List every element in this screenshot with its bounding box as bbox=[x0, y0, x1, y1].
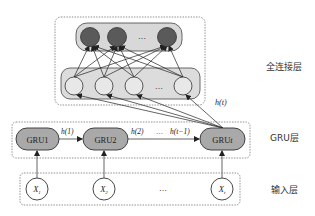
ht-label: h(t) bbox=[215, 98, 227, 107]
fc-output-node-1 bbox=[81, 28, 100, 47]
ht-connections bbox=[77, 95, 223, 128]
gru-cell-2-label: GRU2 bbox=[94, 135, 116, 145]
edge-h1-label: h(1) bbox=[61, 127, 74, 136]
input-ellipsis: … bbox=[159, 184, 167, 193]
edge-h2-label: h(2) bbox=[131, 127, 144, 136]
input-layer-label: 输入层 bbox=[271, 184, 298, 195]
gru-layer-group: GRU1 GRU2 GRUt h(1) h(2) … h(t−1) bbox=[12, 122, 250, 158]
gru-cell-t-label: GRUt bbox=[212, 135, 233, 145]
fc-hidden-node-n bbox=[174, 77, 192, 95]
fc-layer-label: 全连接层 bbox=[266, 61, 302, 72]
input-layer-dashed-border bbox=[20, 173, 240, 205]
gru-cell-1-label: GRU1 bbox=[26, 135, 48, 145]
fc-hidden-node-3 bbox=[125, 77, 143, 95]
edge-ht-minus-1-label: h(t−1) bbox=[170, 127, 190, 136]
fc-output-node-n bbox=[158, 28, 177, 47]
fc-hidden-ellipsis: … bbox=[155, 82, 163, 91]
fc-hidden-node-1 bbox=[65, 77, 83, 95]
fc-layer-group: … … bbox=[55, 17, 205, 105]
fc-output-node-2 bbox=[108, 28, 127, 47]
fc-output-ellipsis: … bbox=[138, 32, 146, 41]
gru-architecture-diagram: … … h(t) GRU1 GRU2 GRUt h(1) bbox=[0, 0, 315, 216]
fc-hidden-node-2 bbox=[95, 77, 113, 95]
gru-layer-label: GRU层 bbox=[270, 133, 299, 143]
input-layer-group: X1 X2 … Xt bbox=[20, 173, 240, 205]
edge-ellipsis: … bbox=[156, 128, 163, 136]
input-connections bbox=[37, 151, 222, 178]
